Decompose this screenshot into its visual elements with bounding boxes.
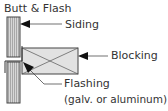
siding-upper-board (7, 17, 20, 57)
siding-lower-board (7, 62, 20, 103)
arrow-blocking (78, 52, 88, 60)
label-siding: Siding (65, 19, 99, 31)
label-flashing-note: (galv. or aluminum) (64, 93, 167, 105)
diagram-title: Butt & Flash (4, 3, 72, 15)
label-blocking: Blocking (111, 50, 158, 62)
label-flashing: Flashing (64, 78, 110, 90)
arrow-siding (20, 20, 30, 28)
